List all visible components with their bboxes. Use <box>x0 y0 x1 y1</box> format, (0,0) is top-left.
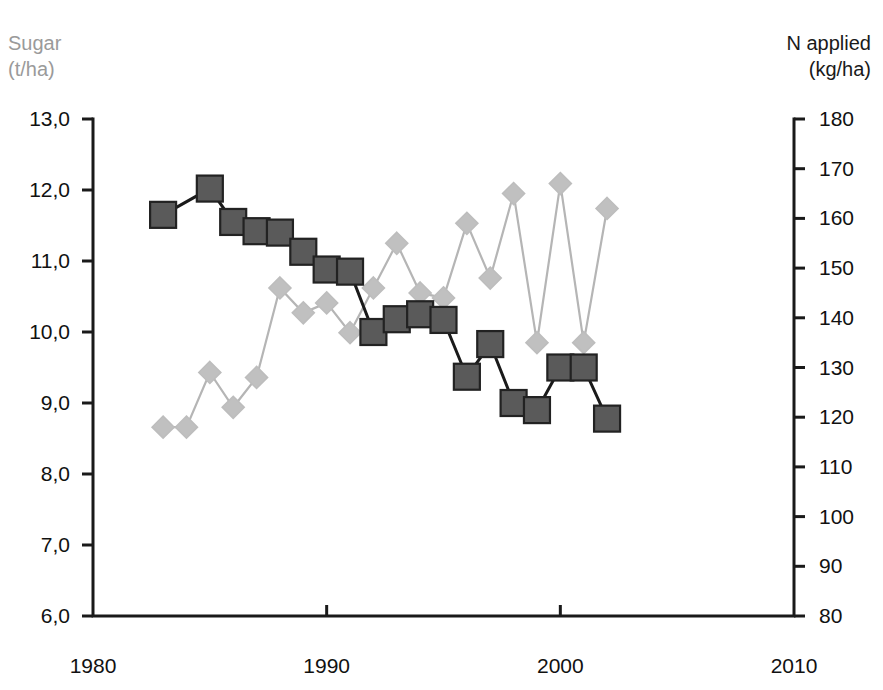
data-point-n-4 <box>246 366 268 388</box>
left-tick-label-6: 12,0 <box>0 178 70 202</box>
right-tick-label-8: 160 <box>819 206 854 230</box>
left-tick-label-5: 11,0 <box>0 249 70 273</box>
right-tick-label-2: 100 <box>819 505 854 529</box>
data-point-sugar-6 <box>314 257 340 283</box>
data-point-n-7 <box>316 292 338 314</box>
data-point-n-18 <box>573 332 595 354</box>
data-point-sugar-1 <box>197 176 223 202</box>
data-point-n-14 <box>479 267 501 289</box>
data-point-n-19 <box>596 197 618 219</box>
plot-area <box>0 0 883 690</box>
x-tick-label-3: 2010 <box>771 654 818 678</box>
data-point-sugar-15 <box>524 397 550 423</box>
left-tick-label-4: 10,0 <box>0 320 70 344</box>
left-axis-ticks <box>82 119 93 616</box>
right-tick-label-0: 80 <box>819 604 842 628</box>
data-point-sugar-13 <box>477 331 503 357</box>
right-tick-label-9: 170 <box>819 157 854 181</box>
data-point-sugar-11 <box>431 307 457 333</box>
data-point-n-13 <box>456 212 478 234</box>
data-point-sugar-18 <box>594 406 620 432</box>
data-point-sugar-4 <box>267 220 293 246</box>
right-tick-label-3: 110 <box>819 455 852 479</box>
right-tick-label-7: 150 <box>819 256 854 280</box>
data-point-sugar-0 <box>150 202 176 228</box>
data-point-n-3 <box>222 396 244 418</box>
data-point-n-8 <box>339 322 361 344</box>
data-point-n-1 <box>175 416 197 438</box>
chart-container: Sugar(t/ha) N applied(kg/ha) 6,07,08,09,… <box>0 0 883 690</box>
right-tick-label-10: 180 <box>819 107 854 131</box>
data-point-sugar-5 <box>290 239 316 265</box>
right-axis-ticks <box>794 119 805 616</box>
data-point-n-0 <box>152 416 174 438</box>
data-point-sugar-12 <box>454 364 480 390</box>
data-point-sugar-9 <box>384 306 410 332</box>
left-tick-label-3: 9,0 <box>0 391 70 415</box>
left-tick-label-2: 8,0 <box>0 462 70 486</box>
data-point-n-2 <box>199 361 221 383</box>
data-point-n-12 <box>433 287 455 309</box>
data-point-sugar-10 <box>407 301 433 327</box>
data-point-n-16 <box>526 332 548 354</box>
series-sugar <box>150 176 620 432</box>
left-tick-label-7: 13,0 <box>0 107 70 131</box>
data-point-sugar-7 <box>337 259 363 285</box>
right-tick-label-5: 130 <box>819 356 854 380</box>
data-point-sugar-16 <box>547 355 573 381</box>
data-point-sugar-8 <box>360 319 386 345</box>
left-tick-label-0: 6,0 <box>0 604 70 628</box>
data-point-sugar-2 <box>220 209 246 235</box>
right-tick-label-4: 120 <box>819 405 854 429</box>
data-point-sugar-3 <box>244 218 270 244</box>
data-point-n-10 <box>386 232 408 254</box>
right-tick-label-1: 90 <box>819 554 842 578</box>
right-tick-label-6: 140 <box>819 306 854 330</box>
data-point-sugar-17 <box>571 355 597 381</box>
x-tick-label-2: 2000 <box>537 654 584 678</box>
left-tick-label-1: 7,0 <box>0 533 70 557</box>
data-point-n-9 <box>362 277 384 299</box>
data-point-n-17 <box>549 173 571 195</box>
data-point-sugar-14 <box>501 390 527 416</box>
x-tick-label-1: 1990 <box>303 654 350 678</box>
x-tick-label-0: 1980 <box>70 654 117 678</box>
x-axis-ticks <box>327 605 561 616</box>
data-point-n-15 <box>503 183 525 205</box>
